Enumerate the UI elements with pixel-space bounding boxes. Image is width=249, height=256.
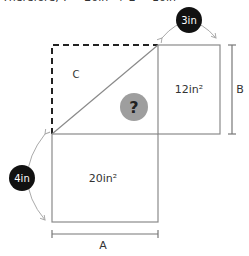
left-badge-label: 4in xyxy=(14,173,29,184)
dimension-b-label: B xyxy=(236,83,244,96)
dimension-a xyxy=(52,230,158,238)
region-c-label: C xyxy=(73,69,80,80)
unknown-marker: ? xyxy=(129,98,138,117)
area-diagram: A B C 12in² 20in² ? 3in 4in xyxy=(0,0,249,256)
dimension-b xyxy=(228,45,236,134)
bottom-area-label: 20in² xyxy=(89,172,117,185)
right-area-label: 12in² xyxy=(175,83,203,96)
top-badge-label: 3in xyxy=(181,15,196,26)
dimension-a-label: A xyxy=(99,239,107,252)
diagonal-line xyxy=(52,45,158,134)
